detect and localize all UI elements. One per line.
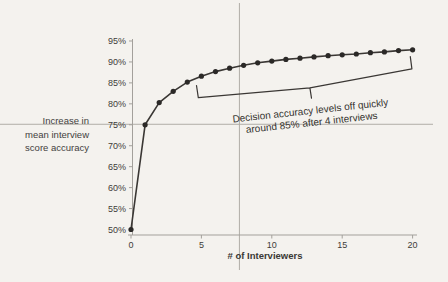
- data-point: [340, 52, 345, 57]
- x-tick-label: 20: [408, 240, 418, 250]
- x-tick-label: 15: [337, 240, 347, 250]
- x-tick-label: 0: [128, 240, 133, 250]
- data-point: [368, 50, 373, 55]
- y-tick-label: 95%: [108, 36, 126, 46]
- y-tick-label: 65%: [108, 162, 126, 172]
- y-tick-label: 60%: [108, 183, 126, 193]
- data-point: [269, 59, 274, 64]
- y-tick-label: 80%: [108, 99, 126, 109]
- data-point: [382, 49, 387, 54]
- data-point: [185, 80, 190, 85]
- x-tick-label: 10: [267, 240, 277, 250]
- y-tick-label: 70%: [108, 141, 126, 151]
- curly-brace: [197, 57, 412, 98]
- data-point: [326, 53, 331, 58]
- data-point: [311, 54, 316, 59]
- data-point: [227, 66, 232, 71]
- data-point: [283, 57, 288, 62]
- y-axis-title-line1: Increase in: [0, 114, 89, 128]
- x-tick-label: 5: [199, 240, 204, 250]
- y-tick-label: 50%: [108, 225, 126, 235]
- x-axis-title: # of Interviewers: [200, 250, 330, 261]
- data-point: [255, 60, 260, 65]
- data-point: [396, 48, 401, 53]
- data-point: [157, 100, 162, 105]
- data-point: [128, 227, 133, 232]
- data-point: [171, 89, 176, 94]
- data-point: [213, 69, 218, 74]
- data-point: [199, 74, 204, 79]
- data-point: [354, 51, 359, 56]
- data-point: [410, 47, 415, 52]
- y-tick-label: 85%: [108, 78, 126, 88]
- y-tick-label: 75%: [108, 120, 126, 130]
- y-axis-title-line3: score accuracy: [0, 141, 89, 155]
- y-tick-label: 90%: [108, 57, 126, 67]
- data-point: [241, 63, 246, 68]
- y-axis-title-line2: mean interview: [0, 128, 89, 142]
- chart-canvas: 50%55%60%65%70%75%80%85%90%95%05101520 I…: [0, 0, 448, 282]
- y-tick-label: 55%: [108, 204, 126, 214]
- y-axis-title: Increase in mean interview score accurac…: [0, 114, 89, 155]
- data-point: [297, 56, 302, 61]
- data-point: [143, 122, 148, 127]
